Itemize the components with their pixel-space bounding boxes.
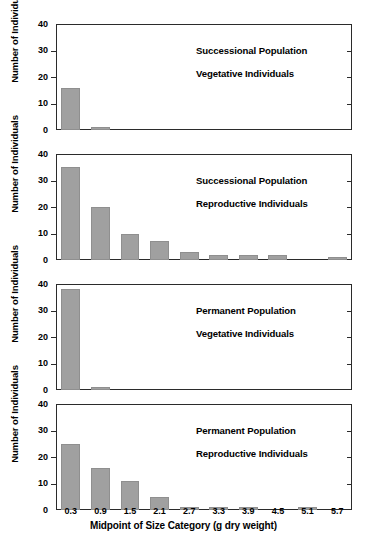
x-tick-mark [263, 497, 293, 503]
y-tick-label-40: 40 [24, 400, 48, 409]
x-tick-label: 3.3 [204, 504, 234, 518]
panel-annotation-stage: Reproductive Individuals [196, 448, 308, 459]
panel-annotation-stage: Vegetative Individuals [196, 68, 294, 79]
y-tick-label-40: 40 [24, 280, 48, 289]
right-tick-20 [347, 457, 352, 458]
y-tick-label-0: 0 [24, 506, 48, 515]
y-axis-ticks: 40 30 20 10 0 [0, 396, 56, 518]
panel-successional-vegetative: Number of Individuals 40 30 20 10 0 Succ… [0, 16, 367, 138]
x-tick-mark [174, 497, 204, 503]
right-tick-30 [347, 51, 352, 52]
right-tick-10 [347, 484, 352, 485]
right-tick-20 [347, 77, 352, 78]
x-tick-label: 1.5 [115, 504, 145, 518]
y-tick-label-10: 10 [24, 359, 48, 368]
y-tick-label-20: 20 [24, 333, 48, 342]
panel-annotation-population: Permanent Population [196, 425, 296, 436]
x-axis-tick-labels: 0.30.91.52.12.73.33.94.55.15.7 [56, 504, 352, 518]
x-tick-label: 0.9 [86, 504, 116, 518]
right-tick-10 [347, 104, 352, 105]
x-tick-mark [56, 497, 86, 503]
x-tick-label: 5.7 [322, 504, 352, 518]
x-tick-label: 0.3 [56, 504, 86, 518]
panel-annotation-stage: Reproductive Individuals [196, 198, 308, 209]
right-tick-30 [347, 431, 352, 432]
right-tick-30 [347, 181, 352, 182]
right-tick-20 [347, 207, 352, 208]
panel-permanent-vegetative: Number of Individuals 40 30 20 10 0 Perm… [0, 276, 367, 398]
y-tick-label-30: 30 [24, 46, 48, 55]
x-tick-label: 3.9 [234, 504, 264, 518]
y-tick-label-20: 20 [24, 203, 48, 212]
x-tick-label: 2.1 [145, 504, 175, 518]
x-tick-mark [234, 497, 264, 503]
x-tick-mark [293, 497, 323, 503]
y-tick-label-10: 10 [24, 99, 48, 108]
x-tick-label: 4.5 [263, 504, 293, 518]
x-tick-mark [115, 497, 145, 503]
y-tick-label-10: 10 [24, 479, 48, 488]
x-tick-mark [86, 497, 116, 503]
panel-annotation-population: Successional Population [196, 45, 307, 56]
panel-annotation-population: Permanent Population [196, 305, 296, 316]
x-tick-mark [204, 497, 234, 503]
right-tick-20 [347, 337, 352, 338]
y-tick-label-30: 30 [24, 176, 48, 185]
y-tick-label-20: 20 [24, 453, 48, 462]
y-tick-label-30: 30 [24, 426, 48, 435]
y-tick-label-10: 10 [24, 229, 48, 238]
y-tick-label-30: 30 [24, 306, 48, 315]
y-tick-label-20: 20 [24, 73, 48, 82]
x-axis-title: Midpoint of Size Category (g dry weight) [0, 520, 367, 531]
right-tick-30 [347, 311, 352, 312]
y-tick-label-0: 0 [24, 126, 48, 135]
x-tick-label: 5.1 [293, 504, 323, 518]
y-tick-label-40: 40 [24, 150, 48, 159]
panel-annotation-stage: Vegetative Individuals [196, 328, 294, 339]
y-tick-label-0: 0 [24, 386, 48, 395]
panel-successional-reproductive: Number of Individuals 40 30 20 10 0 Succ… [0, 146, 367, 268]
histogram-figure: Number of Individuals 40 30 20 10 0 Succ… [0, 0, 367, 538]
panel-annotation-population: Successional Population [196, 175, 307, 186]
y-tick-label-40: 40 [24, 20, 48, 29]
x-tick-mark [322, 497, 352, 503]
x-axis-tick-marks [56, 497, 352, 503]
y-tick-label-0: 0 [24, 256, 48, 265]
x-tick-label: 2.7 [174, 504, 204, 518]
x-tick-mark [145, 497, 175, 503]
right-tick-10 [347, 364, 352, 365]
right-tick-10 [347, 234, 352, 235]
